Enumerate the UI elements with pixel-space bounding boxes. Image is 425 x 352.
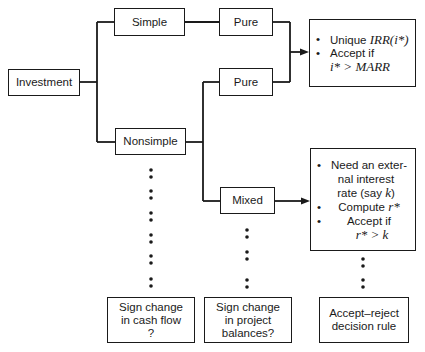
bullet-icon: •: [317, 200, 331, 214]
bullet-icon: •: [316, 47, 330, 60]
pure-top-label: Pure: [234, 16, 258, 29]
arrow-head-pure: [300, 49, 309, 56]
simple-label: Simple: [132, 16, 167, 29]
investment-box: Investment: [8, 69, 80, 96]
bullet-icon: •: [317, 158, 331, 172]
simple-box: Simple: [114, 8, 185, 36]
nonsimple-label: Nonsimple: [123, 135, 177, 148]
decision-rule-box: Accept–reject decision rule: [319, 297, 409, 343]
math-irr: IRR(i*): [370, 32, 409, 47]
math-r-condition: r* > k: [317, 228, 421, 242]
mixed-outcome-item-2: • Compute r*: [317, 200, 415, 214]
arrow-head-mixed: [301, 198, 310, 205]
math-r-star: r*: [388, 199, 400, 214]
pure-mid-box: Pure: [219, 68, 273, 96]
bullet-icon: •: [317, 214, 331, 228]
pure-top-box: Pure: [219, 8, 273, 36]
mixed-outcome-box: • Need an exter- nal interest rate (say …: [310, 148, 416, 251]
investment-label: Investment: [16, 76, 72, 89]
mixed-outcome-item-3: • Accept if: [317, 214, 415, 228]
mixed-label: Mixed: [232, 194, 263, 207]
nonsimple-box: Nonsimple: [115, 128, 186, 155]
math-accept-condition: i* > MARR: [316, 60, 390, 73]
question-cashflow-box: Sign change in cash flow ?: [107, 297, 195, 343]
mixed-outcome-item-1: • Need an exter-: [317, 158, 407, 172]
pure-mid-label: Pure: [234, 76, 258, 89]
mixed-box: Mixed: [220, 187, 275, 214]
pure-outcome-item-1: • Unique IRR(i*): [316, 33, 409, 47]
pure-outcome-box: • Unique IRR(i*) • Accept if i* > MARR: [309, 19, 416, 87]
bullet-icon: •: [316, 33, 330, 47]
question-balances-box: Sign change in project balances?: [204, 297, 292, 343]
